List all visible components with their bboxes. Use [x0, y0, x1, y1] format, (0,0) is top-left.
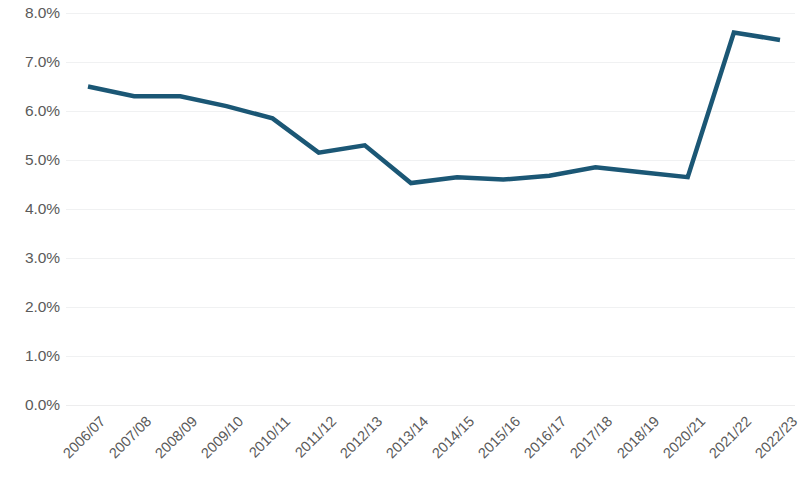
series-line-rate: [88, 33, 780, 183]
